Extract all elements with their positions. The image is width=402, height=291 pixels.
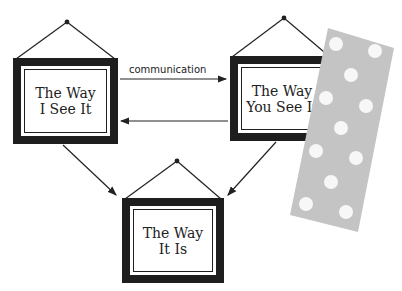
dotted-sticker — [0, 0, 402, 291]
